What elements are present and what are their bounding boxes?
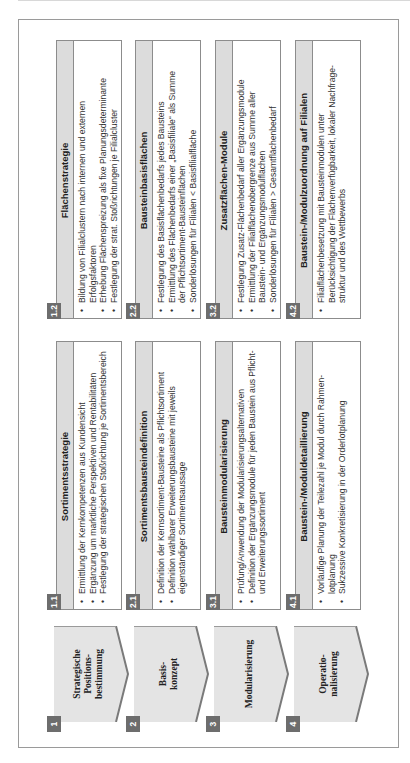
step-badge-3: 3 [206,716,220,732]
step-badge-1-1: 1.1 [47,594,61,610]
bullet-item: Ergänzung um marktliche Perspektiven und… [88,349,99,604]
phase-chevron-2: Basis- konzept [134,626,210,722]
bullet-item: Sukzessive Konkretisierung in der Orderl… [337,349,348,604]
box-title: Zusatzflächen-Module [216,41,232,320]
bullet-item: Festlegung des Basisflächenbedarfs jedes… [156,48,167,313]
step-badge-2: 2 [126,716,140,732]
box-body: Definition der Kernsortiment-Bausteine a… [156,349,188,604]
box-body: Filialflächenbesetzung mit Bausteinmodul… [316,48,348,313]
bullet-item: Sonderlösungen für Filialen < Basisfilia… [188,48,199,313]
step-badge-4-2: 4.2 [286,303,300,319]
step-badge-1: 1 [47,716,61,732]
box-title: Flächenstrategie [57,41,73,320]
phase-label: Modularisierung [244,632,255,716]
box-1-2: Flächenstrategie Bildung von Filialclust… [56,40,122,319]
box-title: Bausteinbasisflächen [136,41,152,320]
box-3-1: Bausteinmodularisierung Prüfung/Anwendun… [215,341,281,610]
bullet-item: Sonderlösungen für Filialen > Gesamtfläc… [268,48,279,313]
box-4-2: Baustein-/Modulzuordnung auf Filialen Fi… [295,40,361,319]
step-badge-2-1: 2.1 [126,594,140,610]
bullet-item: Festlegung Zusatz-Flächenbedarf aller Er… [236,48,247,313]
phase-chevron-1: Strategische Positions- bestimmung [54,626,130,722]
box-title: Baustein-/Moduldetaillierung [296,342,312,611]
bullet-item: Prüfung/Anwendung der Modularisierungsal… [236,349,247,604]
phase-label: Strategische Positions- bestimmung [72,634,105,714]
bullet-item: Festlegung der strategischen Stoßrichtun… [98,349,109,604]
bullet-item: Definition wählbarer Erweiterungsbaustei… [167,349,188,604]
phase-chevron-4: Operatio- nalisierung [294,626,370,722]
box-2-2: Bausteinbasisflächen Festlegung des Basi… [135,40,201,319]
bullet-item: Filialflächenbesetzung mit Bausteinmodul… [316,48,348,313]
box-title: Bausteinmodularisierung [216,342,232,611]
phase-label: Basis- konzept [158,634,180,714]
box-body: Vorläufige Planung der Teilezahl je Modu… [316,349,348,604]
box-2-1: Sortimentsbausteindefinition Definition … [135,341,201,610]
phase-chevron-3: Modularisierung [214,626,290,722]
box-3-2: Zusatzflächen-Module Festlegung Zusatz-F… [215,40,281,319]
step-badge-1-2: 1.2 [47,303,61,319]
step-badge-3-2: 3.2 [206,303,220,319]
bullet-item: Ermittlung des Flächenbedarfs einer „Bas… [167,48,188,313]
box-title: Sortimentsstrategie [57,342,73,611]
bullet-item: Ermittlung der Kernkompetenzen aus Kunde… [77,349,88,604]
step-badge-3-1: 3.1 [206,594,220,610]
box-title: Sortimentsbausteindefinition [136,342,152,611]
step-badge-4: 4 [286,716,300,732]
bullet-item: Festlegung der strat. Stoßrichtungen je … [109,48,120,313]
step-badge-4-1: 4.1 [286,594,300,610]
box-1-1: Sortimentsstrategie Ermittlung der Kernk… [56,341,122,610]
box-4-1: Baustein-/Moduldetaillierung Vorläufige … [295,341,361,610]
bullet-item: Definition der Kernsortiment-Bausteine a… [156,349,167,604]
bullet-item: Erhebung Flächenspreizung als fixe Planu… [98,48,109,313]
bullet-item: Ermittlung der Filialflächenobergrenze a… [247,48,268,313]
box-body: Bildung von Filialclustern nach internen… [77,48,119,313]
box-body: Festlegung Zusatz-Flächenbedarf aller Er… [236,48,278,313]
box-title: Baustein-/Modulzuordnung auf Filialen [296,41,312,320]
phase-label: Operatio- nalisierung [318,634,340,714]
box-body: Prüfung/Anwendung der Modularisierungsal… [236,349,268,604]
box-body: Ermittlung der Kernkompetenzen aus Kunde… [77,349,109,604]
bullet-item: Bildung von Filialclustern nach internen… [77,48,98,313]
page-edge-line [18,0,410,1]
bullet-item: Vorläufige Planung der Teilezahl je Modu… [316,349,337,604]
box-body: Festlegung des Basisflächenbedarfs jedes… [156,48,198,313]
step-badge-2-2: 2.2 [126,303,140,319]
bullet-item: Definition der Ergänzungsmodule für jede… [247,349,268,604]
